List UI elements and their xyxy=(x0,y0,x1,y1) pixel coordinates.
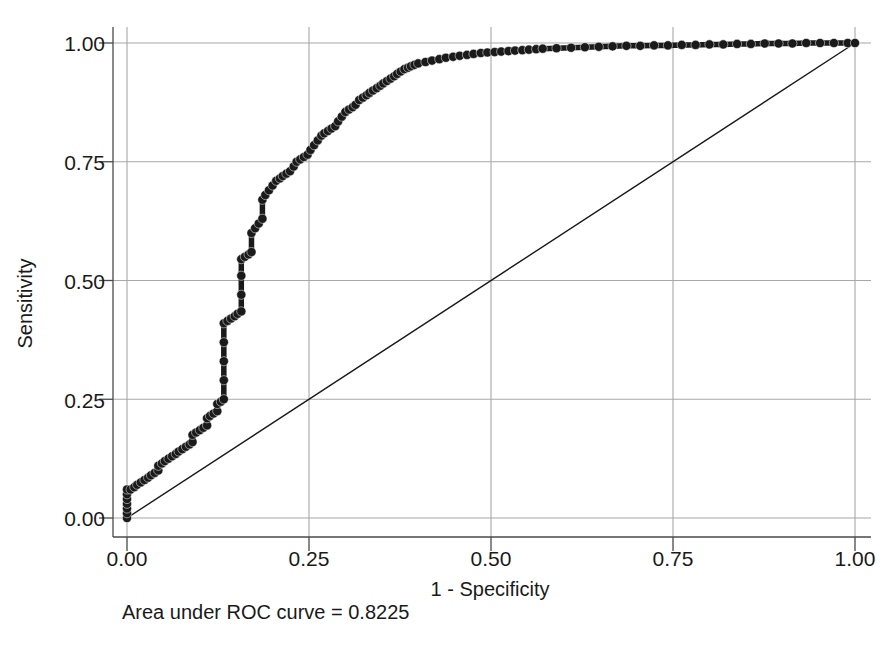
y-axis-title: Sensitivity xyxy=(14,219,37,349)
xtick-label-025: 0.25 xyxy=(264,547,354,571)
x-axis-title: 1 - Specificity xyxy=(400,578,580,601)
auc-annotation: Area under ROC curve = 0.8225 xyxy=(122,601,409,624)
ytick-label-025: 0.25 xyxy=(20,389,105,413)
ytick-label-100: 1.00 xyxy=(20,32,105,56)
ytick-label-000: 0.00 xyxy=(20,507,105,531)
tick-marks-group xyxy=(99,43,855,551)
xtick-label-050: 0.50 xyxy=(446,547,536,571)
gridlines-group xyxy=(113,27,871,537)
axis-lines-group xyxy=(113,27,871,537)
ytick-label-075: 0.75 xyxy=(20,151,105,175)
xtick-label-000: 0.00 xyxy=(82,547,172,571)
xtick-label-100: 1.00 xyxy=(810,547,895,571)
xtick-label-075: 0.75 xyxy=(628,547,718,571)
roc-curve-figure: 1.00 0.75 0.50 0.25 0.00 0.00 0.25 0.50 … xyxy=(0,0,895,646)
